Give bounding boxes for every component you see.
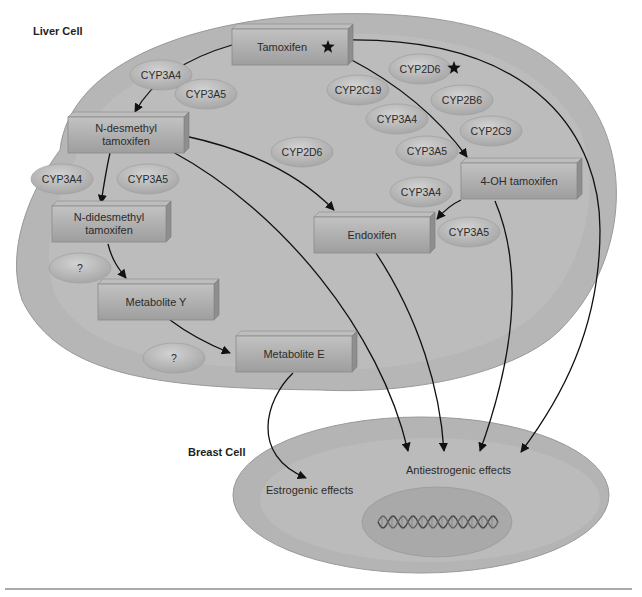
compound-label-line1: N-desmethyl (95, 122, 157, 134)
compound-box-metabolite-y: Metabolite Y (98, 279, 219, 320)
box-side-face (430, 212, 435, 253)
enzyme-label: CYP3A5 (407, 145, 447, 157)
compound-box-metabolite-e: Metabolite E (236, 331, 357, 372)
enzyme-label: CYP2D6 (282, 146, 323, 158)
enzyme-cyp3a5: CYP3A5 (438, 217, 500, 247)
box-side-face (577, 158, 582, 199)
box-top-face (68, 112, 189, 117)
enzyme-label: ? (171, 352, 177, 364)
box-top-face (461, 158, 582, 163)
enzyme-cyp3a4: CYP3A4 (390, 177, 452, 207)
box-top-face (232, 24, 353, 29)
estrogenic-effects-label: Estrogenic effects (266, 484, 354, 496)
enzyme-label: CYP2B6 (442, 94, 482, 106)
enzyme-cyp3a4: CYP3A4 (366, 104, 428, 134)
compound-label: Metabolite E (263, 348, 324, 360)
enzyme-label: CYP2C9 (471, 125, 512, 137)
antiestrogenic-effects-label: Antiestrogenic effects (406, 464, 511, 476)
breast-cell-title: Breast Cell (188, 446, 245, 458)
box-top-face (98, 279, 219, 284)
box-side-face (166, 201, 171, 242)
compound-box-endoxifen: Endoxifen (314, 212, 435, 253)
enzyme-cyp3a5: CYP3A5 (117, 164, 179, 194)
enzyme-cyp3a4: CYP3A4 (31, 164, 93, 194)
box-top-face (314, 212, 435, 217)
liver-cell-title: Liver Cell (33, 25, 83, 37)
compound-box-tamoxifen: Tamoxifen (232, 24, 353, 65)
enzyme-cyp3a5: CYP3A5 (396, 136, 458, 166)
enzyme-label: CYP3A4 (377, 113, 417, 125)
tamoxifen-metabolism-diagram: Liver Cell Breast Cell Estrogenic effect… (0, 0, 642, 597)
compound-label: Tamoxifen (257, 41, 307, 53)
enzyme-cyp2c9: CYP2C9 (460, 116, 522, 146)
enzyme-cyp2b6: CYP2B6 (431, 85, 493, 115)
box-side-face (348, 24, 353, 65)
compound-label: Metabolite Y (126, 296, 188, 308)
compound-label: Endoxifen (348, 229, 397, 241)
enzyme-cyp2c19: CYP2C19 (327, 75, 389, 105)
enzyme-label: ? (77, 262, 83, 274)
compound-box-oh-tamoxifen: 4-OH tamoxifen (461, 158, 582, 199)
enzyme-label: CYP3A4 (401, 186, 441, 198)
compound-label-line2: tamoxifen (102, 135, 150, 147)
breast-cell: Breast Cell Estrogenic effects Antiestro… (188, 417, 609, 573)
enzyme-label: CYP3A5 (186, 88, 226, 100)
box-side-face (184, 112, 189, 153)
box-side-face (214, 279, 219, 320)
enzyme-label: CYP3A4 (42, 173, 82, 185)
compound-box-n-didesmethyl: N-didesmethyltamoxifen (52, 201, 171, 242)
compound-label: 4-OH tamoxifen (480, 175, 557, 187)
enzyme-unknown: ? (49, 253, 111, 283)
box-side-face (352, 331, 357, 372)
enzyme-cyp3a5: CYP3A5 (175, 79, 237, 109)
enzyme-cyp2d6: CYP2D6 (271, 137, 333, 167)
compound-label-line2: tamoxifen (85, 224, 133, 236)
compound-label-line1: N-didesmethyl (74, 211, 144, 223)
box-top-face (52, 201, 171, 206)
enzyme-label: CYP3A4 (141, 69, 181, 81)
enzyme-label: CYP3A5 (128, 173, 168, 185)
compound-box-n-desmethyl: N-desmethyltamoxifen (68, 112, 189, 153)
box-top-face (236, 331, 357, 336)
enzyme-label: CYP2C19 (335, 84, 382, 96)
enzyme-unknown: ? (143, 343, 205, 373)
enzyme-label: CYP2D6 (400, 63, 441, 75)
enzyme-label: CYP3A5 (449, 226, 489, 238)
